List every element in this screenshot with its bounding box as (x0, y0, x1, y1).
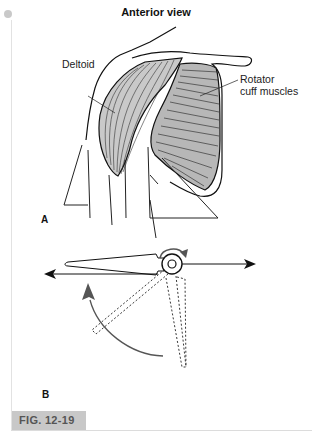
sweep-arrowhead (82, 283, 95, 300)
shoulder-anatomy-drawing (86, 27, 252, 196)
rotator-cuff-label-line1: Rotator (240, 73, 274, 85)
dashed-lever-positions (92, 270, 186, 367)
lever-diagram (50, 254, 250, 275)
deltoid-label: Deltoid (62, 58, 95, 70)
panel-label-a: A (41, 214, 48, 225)
rotator-cuff-label-line2: cuff muscles (240, 85, 298, 97)
figure-page: Anterior view (0, 0, 312, 435)
figure-caption-tag: FIG. 12-19 (12, 411, 86, 430)
panel-label-b: B (42, 389, 49, 400)
